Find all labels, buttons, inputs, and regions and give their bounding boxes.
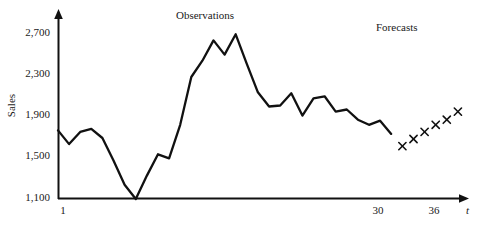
observations-line bbox=[58, 34, 391, 199]
y-tick-label-2700: 2,700 bbox=[6, 27, 50, 38]
forecast-marker-3 bbox=[421, 128, 428, 135]
chart-plot-area bbox=[0, 0, 477, 227]
sales-forecast-chart: Sales 2,700 2,300 1,900 1,500 1,100 1 30… bbox=[0, 0, 477, 227]
y-axis-title: Sales bbox=[6, 81, 17, 131]
observations-annotation: Observations bbox=[176, 10, 234, 21]
y-tick-label-2300: 2,300 bbox=[6, 68, 50, 79]
x-axis-arrowhead bbox=[459, 194, 469, 203]
forecast-marker-1 bbox=[399, 143, 406, 150]
forecast-markers bbox=[399, 108, 462, 150]
x-tick-label-36: 36 bbox=[419, 205, 449, 216]
y-axis-arrowhead bbox=[54, 9, 63, 19]
x-tick-label-1: 1 bbox=[48, 205, 78, 216]
forecast-marker-4 bbox=[432, 121, 439, 128]
forecast-marker-6 bbox=[454, 108, 461, 115]
y-tick-label-1500: 1,500 bbox=[6, 150, 50, 161]
y-tick-label-1900: 1,900 bbox=[6, 109, 50, 120]
y-tick-label-1100: 1,100 bbox=[6, 192, 50, 203]
forecast-marker-2 bbox=[410, 135, 417, 142]
forecasts-annotation: Forecasts bbox=[376, 22, 418, 33]
x-axis-title: t bbox=[466, 205, 469, 216]
forecast-marker-5 bbox=[443, 116, 450, 123]
x-tick-label-30: 30 bbox=[363, 205, 393, 216]
